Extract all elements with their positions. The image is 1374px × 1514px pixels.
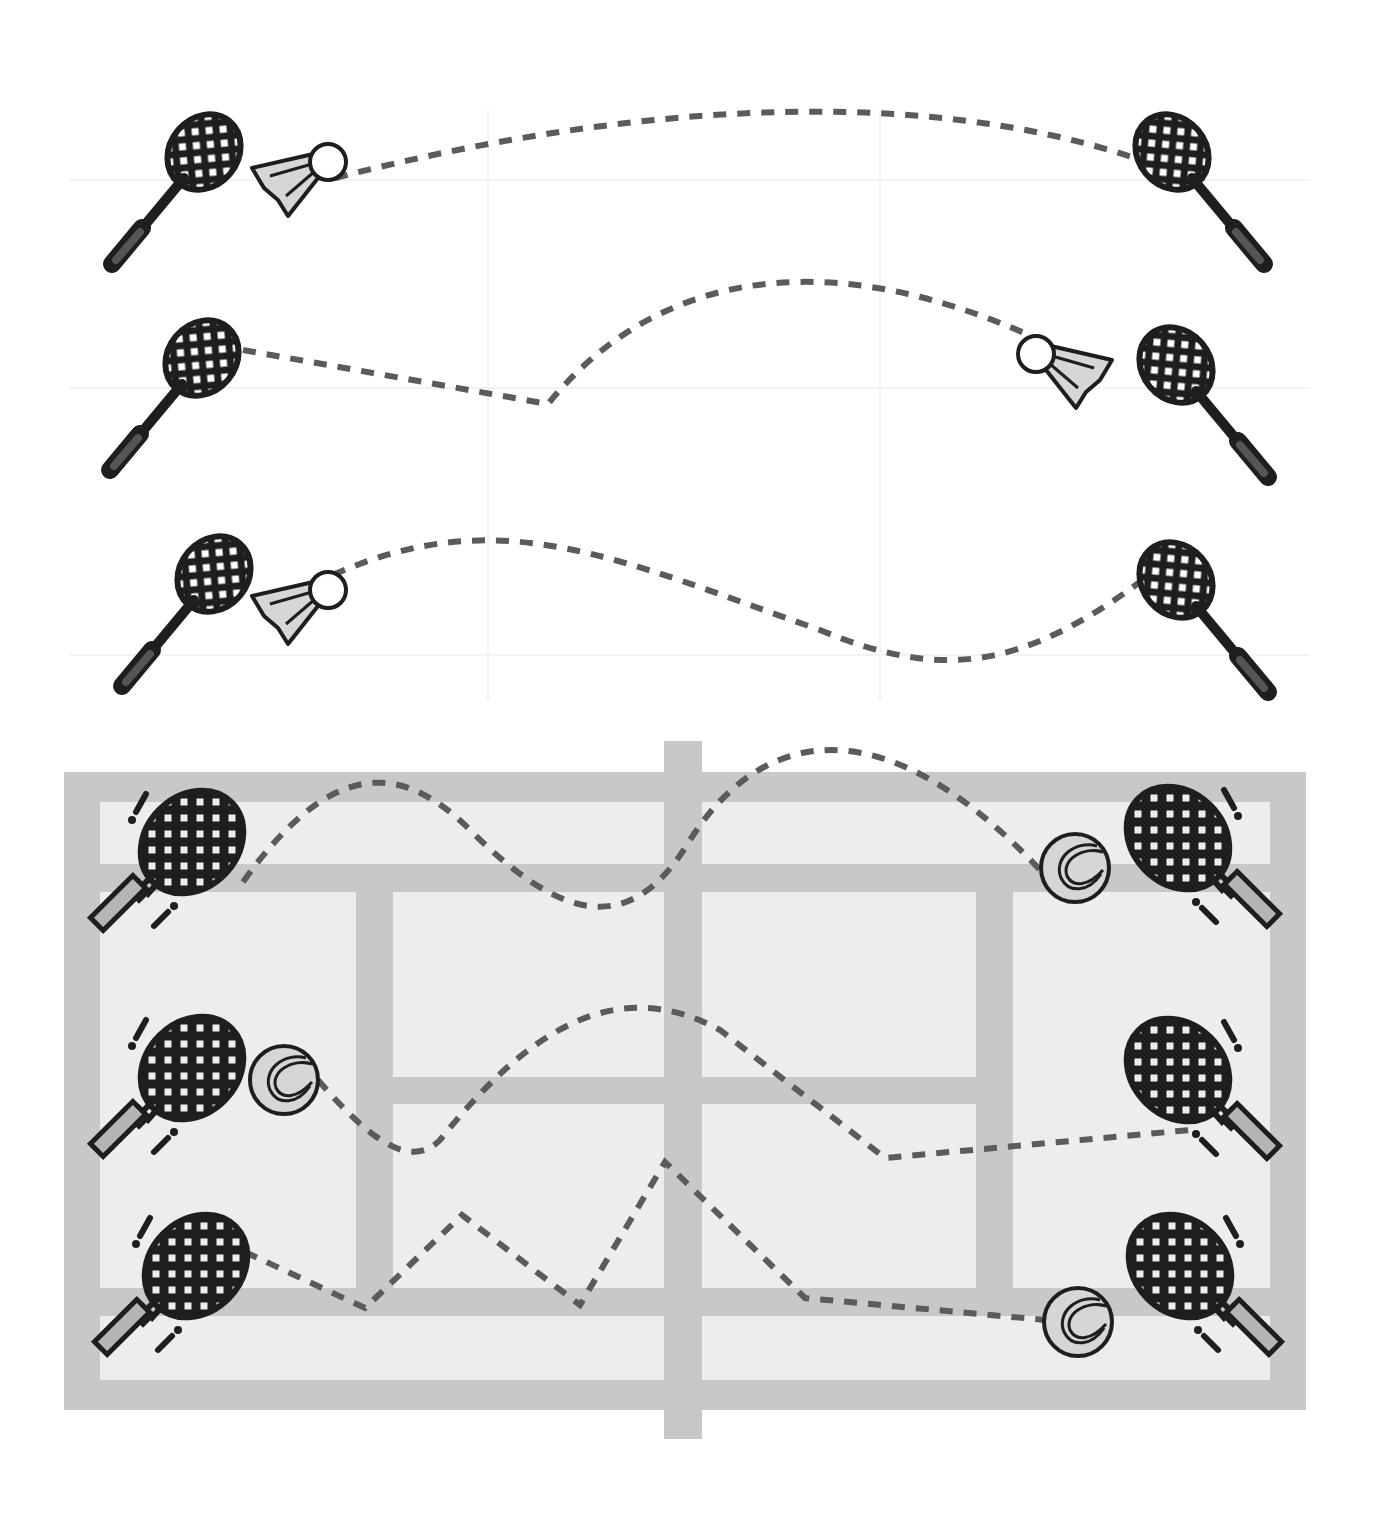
trajectory-path [243, 282, 1040, 404]
tennis-ball-icon [250, 1046, 318, 1114]
badminton-racket-icon [1124, 528, 1268, 692]
shuttlecock-icon [1018, 336, 1112, 408]
trajectory-path [333, 540, 1140, 660]
shuttlecock-icon [252, 144, 346, 216]
badminton-section [110, 100, 1268, 692]
tennis-ball-icon [1041, 834, 1109, 902]
background-grid [70, 110, 1310, 700]
badminton-rally-2 [110, 282, 1268, 477]
tennis-net [664, 741, 702, 1439]
badminton-rally-1 [112, 100, 1264, 264]
shuttlecock-icon [252, 572, 346, 644]
tennis-section [64, 741, 1306, 1439]
tennis-ball-icon [1044, 1288, 1112, 1356]
badminton-racket-icon [112, 100, 256, 264]
badminton-racket-icon [1120, 100, 1264, 264]
trajectory-path [335, 112, 1135, 178]
racket-sports-trajectory-diagram [0, 0, 1374, 1514]
badminton-racket-icon [1124, 313, 1268, 477]
badminton-rally-3 [122, 522, 1268, 692]
badminton-racket-icon [122, 522, 266, 686]
